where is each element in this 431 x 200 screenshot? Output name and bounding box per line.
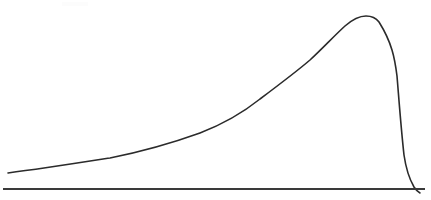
distribution-curve — [8, 16, 420, 193]
plot-canvas — [0, 0, 431, 200]
chart-figure — [0, 0, 431, 200]
